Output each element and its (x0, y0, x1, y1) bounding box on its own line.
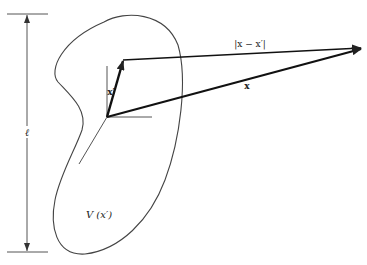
source-vector-label: x′ (107, 87, 115, 97)
height-dimension: ℓ (7, 14, 48, 252)
difference-vector-label: |x − x′| (234, 39, 266, 50)
region-boundary (53, 15, 182, 254)
height-label: ℓ (25, 127, 29, 138)
region-label: V (x′) (86, 209, 112, 220)
diagram-canvas: ℓ x′ |x − x′| x V (x′) (0, 0, 367, 265)
field-vector-label: x (244, 81, 250, 91)
